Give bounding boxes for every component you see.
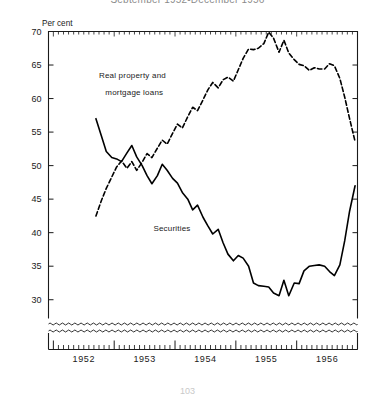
x-tick-label: 1952 [73, 354, 95, 364]
y-axis-break [49, 323, 358, 332]
series-label: Real property and [99, 71, 166, 80]
series-label: mortgage loans [105, 88, 163, 97]
y-tick-label: 45 [31, 194, 41, 204]
y-tick-label: 30 [31, 295, 41, 305]
x-tick-label: 1955 [255, 354, 277, 364]
y-tick-label: 50 [31, 161, 41, 171]
page-number: 103 [0, 386, 375, 394]
y-axis-unit-label: Per cent [42, 19, 73, 28]
y-tick-label: 40 [31, 228, 41, 238]
plot-frame [49, 32, 358, 319]
x-axis: 19521953195419551956 [53, 32, 357, 364]
y-axis: 303540455055606570 [31, 27, 357, 305]
y-tick-label: 55 [31, 127, 41, 137]
y-tick-label: 35 [31, 261, 41, 271]
series-line-solid [96, 119, 355, 296]
x-tick-label: 1956 [316, 354, 338, 364]
series-line-dashed [96, 32, 355, 216]
y-tick-label: 65 [31, 60, 41, 70]
y-tick-label: 70 [31, 27, 41, 37]
x-tick-label: 1953 [133, 354, 155, 364]
x-tick-label: 1954 [194, 354, 216, 364]
series-label: Securities [153, 224, 190, 233]
chart-title: September 1952-December 1956 [0, 0, 375, 3]
series-annotations: Real property andmortgage loansSecuritie… [99, 71, 191, 232]
y-tick-label: 60 [31, 94, 41, 104]
